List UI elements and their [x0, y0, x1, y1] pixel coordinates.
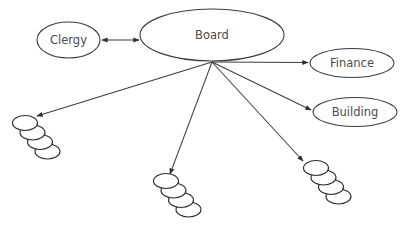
node-clergy-label: Clergy [50, 33, 87, 47]
diagram-svg: Clergy Board Finance Building [0, 0, 414, 226]
node-building[interactable]: Building [313, 98, 397, 127]
document-icon [304, 161, 329, 176]
edge-board-building [212, 62, 311, 110]
node-finance[interactable]: Finance [310, 49, 394, 78]
stack-left [13, 116, 61, 160]
edge-board-stack-left [37, 62, 212, 116]
node-clergy[interactable]: Clergy [37, 22, 100, 58]
document-icon [13, 116, 38, 131]
edges-group [37, 40, 311, 174]
document-icon [154, 174, 179, 189]
stack-middle [154, 174, 202, 218]
node-building-label: Building [332, 105, 379, 119]
document-stacks-group [13, 116, 352, 218]
node-board[interactable]: Board [140, 9, 284, 61]
edge-board-finance [212, 62, 308, 63]
node-board-label: Board [195, 28, 229, 42]
node-finance-label: Finance [330, 56, 374, 70]
diagram-canvas: Clergy Board Finance Building [0, 0, 414, 226]
edge-board-stack-right [212, 62, 303, 161]
stack-right [304, 161, 352, 205]
edge-board-stack-middle [170, 62, 212, 174]
